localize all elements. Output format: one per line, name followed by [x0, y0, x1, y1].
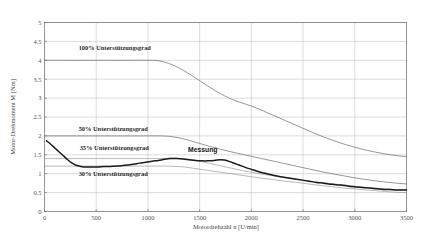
y-tick-label: 3: [38, 94, 41, 101]
curve-label: 100% Unterstützungsgrad: [79, 44, 152, 51]
x-tick-label: 0: [43, 214, 46, 221]
x-tick-label: 3000: [348, 214, 361, 221]
y-tick-label: 0.5: [33, 189, 41, 196]
x-tick-label: 1000: [141, 214, 154, 221]
y-axis-title: Motor-Drehmoment M [Nm]: [9, 79, 17, 155]
x-tick-label: 2500: [297, 214, 310, 221]
x-tick-label: 1500: [193, 214, 206, 221]
x-tick-label: 500: [91, 214, 101, 221]
curve-label: Messung: [188, 146, 217, 154]
x-tick-label: 2000: [245, 214, 258, 221]
torque-speed-chart: 0500100015002000250030003500 00.511.522.…: [0, 0, 438, 246]
y-tick-label: 0: [38, 208, 41, 215]
y-tick-label: 2: [38, 132, 41, 139]
x-axis-ticks: 0500100015002000250030003500: [43, 209, 413, 221]
chart-container: 0500100015002000250030003500 00.511.522.…: [0, 0, 438, 246]
x-axis-title: Motordrehzahl n [U/min]: [193, 223, 259, 231]
y-tick-label: 5: [38, 19, 41, 26]
x-tick-label: 3500: [400, 214, 413, 221]
y-tick-label: 4: [38, 57, 42, 64]
y-tick-label: 1: [38, 170, 41, 177]
y-tick-label: 1.5: [33, 151, 41, 158]
curve-label: 30% Unterstützungsgrad: [79, 170, 149, 177]
y-tick-label: 3.5: [33, 76, 41, 83]
series-curve: [45, 60, 407, 156]
curve-label: 50% Unterstützungsgrad: [79, 125, 149, 132]
y-tick-label: 2.5: [33, 113, 41, 120]
y-tick-label: 4.5: [33, 38, 41, 45]
curve-label: 35% Unterstützungsgrad: [80, 144, 150, 151]
grid-lines: [45, 23, 407, 212]
y-axis-ticks: 00.511.522.533.544.55: [33, 19, 47, 215]
